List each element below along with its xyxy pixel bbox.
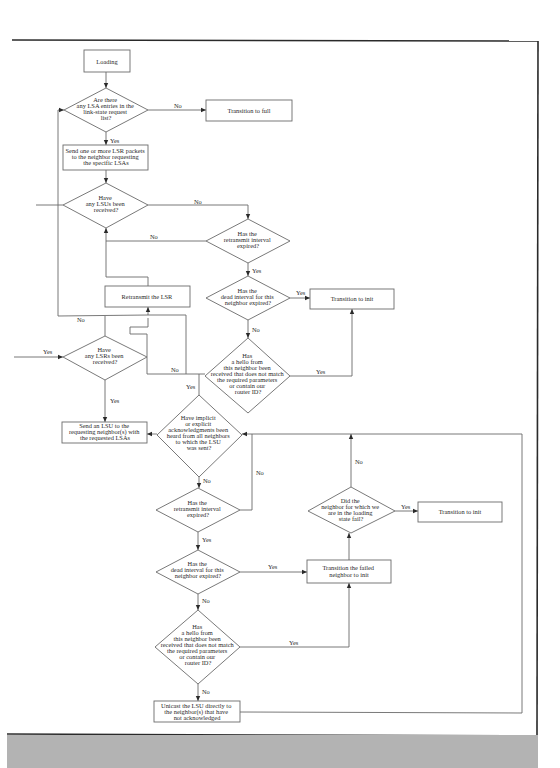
edge-label-hello2-yes: Yes xyxy=(289,639,299,646)
bottom-gray-band xyxy=(7,735,538,768)
edge-label-lsrs-loop-no: No xyxy=(77,316,85,323)
node-transition-full-text: Transition to full xyxy=(227,107,270,114)
page-right-rule xyxy=(537,41,538,735)
node-transition-failed-text: Transition the failed neighbor to init xyxy=(322,564,375,578)
edge-label-dead2-no: No xyxy=(202,597,210,604)
page-top-rule xyxy=(12,40,538,41)
edge-label-dead1-yes: Yes xyxy=(296,289,306,296)
edge-label-lsa-yes: Yes xyxy=(110,137,120,144)
node-retransmit-lsr-text: Retransmit the LSR xyxy=(122,293,174,300)
edge-label-hello2-no: No xyxy=(202,688,210,695)
node-transition-init-2-text: Transition to init xyxy=(439,508,482,515)
edge-label-retransmit1-yes: Yes xyxy=(252,267,262,274)
edge-label-neighbor-fail-yes: Yes xyxy=(401,503,411,510)
flowchart: Loading Are there any LSA entries in the… xyxy=(0,0,560,768)
edge-label-neighbor-fail-no: No xyxy=(355,458,363,465)
page: Loading Are there any LSA entries in the… xyxy=(0,0,560,768)
edge-label-hello1-to-acks-yes: Yes xyxy=(186,383,196,390)
edge-label-lsa-no: No xyxy=(174,102,182,109)
edge-label-lsrs-entry-yes: Yes xyxy=(43,348,53,355)
edge-label-hello1-yes: Yes xyxy=(316,368,326,375)
edge-label-lsus-no: No xyxy=(194,198,202,205)
edge-label-retransmit2-yes: Yes xyxy=(202,536,212,543)
edge-label-retransmit2-no: No xyxy=(256,469,264,476)
edge-label-hello1-no: No xyxy=(171,366,179,373)
node-transition-init-1-text: Transition to init xyxy=(331,295,374,302)
edge-label-dead2-yes: Yes xyxy=(268,563,278,570)
edge-label-dead1-no: No xyxy=(252,326,260,333)
node-loading-text: Loading xyxy=(96,58,118,65)
edge-label-lsrs-yes: Yes xyxy=(110,397,120,404)
edge-label-retransmit1-no: No xyxy=(150,233,158,240)
edge-label-acks-no: No xyxy=(203,477,211,484)
